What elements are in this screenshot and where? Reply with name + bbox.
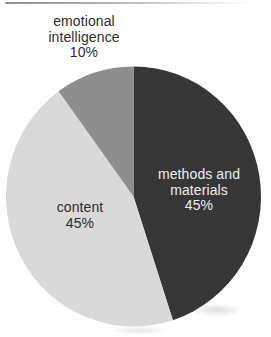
slice-percent-text: 10% [30,45,138,61]
slice-label-text: methods and materials [144,167,254,198]
slice-percent-text: 45% [28,216,132,232]
slice-label-text: emotional intelligence [30,14,138,45]
slice-label-methods-and-materials: methods and materials 45% [144,167,254,214]
pie-chart-figure: methods and materials 45% content 45% em… [0,0,271,337]
slice-label-text: content [28,200,132,216]
slice-percent-text: 45% [144,198,254,214]
slice-label-content: content 45% [28,200,132,231]
slice-label-emotional-intelligence: emotional intelligence 10% [30,14,138,61]
